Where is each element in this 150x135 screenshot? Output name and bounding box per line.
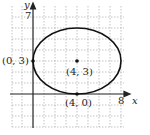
x-axis-label: x xyxy=(132,95,138,106)
label-0-3: (0, 3) xyxy=(2,55,29,66)
y-axis-arrow-icon xyxy=(31,3,36,9)
y-tick-7: 7 xyxy=(25,10,31,21)
point-4-3 xyxy=(75,59,79,63)
x-axis-arrow-icon xyxy=(124,92,130,97)
y-axis-label: y xyxy=(23,0,30,10)
ellipse-graph: y 7 x 8 (0, 3) (4, 3) (4, 0) xyxy=(0,0,150,135)
label-4-3: (4, 3) xyxy=(66,66,93,77)
point-0-3 xyxy=(31,59,35,63)
x-tick-8: 8 xyxy=(118,95,124,106)
label-4-0: (4, 0) xyxy=(65,97,92,108)
plot-svg: y 7 x 8 (0, 3) (4, 3) (4, 0) xyxy=(0,0,150,135)
point-4-0 xyxy=(75,92,79,96)
